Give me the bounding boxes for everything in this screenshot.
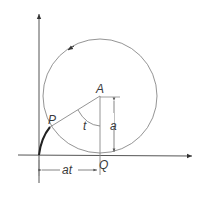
x-axis [18,155,192,156]
label-A: A [95,82,104,96]
label-a: a [110,119,117,133]
angle-arc-t [78,110,100,126]
label-at: at [62,163,73,177]
label-Q: Q [99,158,108,172]
cycloid-curve [39,127,50,155]
cycloid-diagram: A P t a Q at [0,0,202,197]
label-P: P [48,113,56,127]
diagram-canvas: A P t a Q at [0,0,202,197]
radius-AP [50,96,100,127]
